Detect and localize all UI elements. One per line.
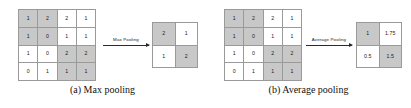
matrix-cell: 2 bbox=[58, 46, 76, 63]
matrix-cell: 0 bbox=[38, 28, 56, 45]
matrix-cell: 2 bbox=[264, 10, 282, 27]
arrow-head-icon bbox=[146, 43, 150, 47]
matrix-cell: 1.75 bbox=[380, 23, 402, 45]
matrix-cell: 1 bbox=[357, 23, 379, 45]
matrix-cell: 0 bbox=[244, 46, 262, 63]
matrix-cell: 1 bbox=[225, 28, 243, 45]
matrix-cell: 1 bbox=[244, 63, 262, 80]
matrix-cell: 1 bbox=[283, 10, 301, 27]
matrix-cell: 1 bbox=[58, 63, 76, 80]
matrix-cell: 1 bbox=[153, 46, 175, 68]
arrow-label: Max Pooling bbox=[113, 37, 139, 42]
input-feature-map-a: 1 2 2 1 1 0 1 1 1 0 2 2 0 1 1 1 bbox=[18, 9, 96, 81]
matrix-cell: 0 bbox=[244, 28, 262, 45]
matrix-cell: 2 bbox=[244, 10, 262, 27]
max-pooling-diagram: 1 2 2 1 1 0 1 1 1 0 2 2 0 1 1 1 Max Pool… bbox=[0, 4, 205, 82]
matrix-cell: 0 bbox=[19, 63, 37, 80]
pooling-figure: 1 2 2 1 1 0 1 1 1 0 2 2 0 1 1 1 Max Pool… bbox=[0, 0, 411, 108]
matrix-cell: 1.5 bbox=[380, 46, 402, 68]
matrix-cell: 1 bbox=[176, 23, 198, 45]
matrix-cell: 1 bbox=[19, 46, 37, 63]
panel-caption: (b) Average pooling bbox=[206, 84, 411, 95]
matrix-cell: 1 bbox=[77, 63, 95, 80]
output-feature-map-b: 1 1.75 0.5 1.5 bbox=[356, 22, 402, 68]
matrix-cell: 2 bbox=[58, 10, 76, 27]
matrix-cell: 1 bbox=[264, 28, 282, 45]
matrix-cell: 2 bbox=[38, 10, 56, 27]
average-pooling-arrow: Average Pooling bbox=[306, 45, 352, 46]
average-pooling-diagram: 1 2 2 1 1 0 1 1 1 0 2 2 0 1 1 1 Average … bbox=[206, 4, 411, 82]
matrix-cell: 0.5 bbox=[357, 46, 379, 68]
matrix-cell: 0 bbox=[225, 63, 243, 80]
arrow-head-icon bbox=[349, 43, 353, 47]
input-feature-map-b: 1 2 2 1 1 0 1 1 1 0 2 2 0 1 1 1 bbox=[224, 9, 302, 81]
output-feature-map-a: 2 1 1 2 bbox=[152, 22, 198, 68]
matrix-cell: 1 bbox=[225, 10, 243, 27]
matrix-cell: 1 bbox=[283, 63, 301, 80]
arrow-label: Average Pooling bbox=[312, 37, 346, 42]
matrix-cell: 1 bbox=[19, 28, 37, 45]
panel-average-pooling: 1 2 2 1 1 0 1 1 1 0 2 2 0 1 1 1 Average … bbox=[206, 0, 411, 108]
matrix-cell: 2 bbox=[153, 23, 175, 45]
matrix-cell: 1 bbox=[77, 10, 95, 27]
arrow-line bbox=[306, 45, 352, 46]
arrow-line bbox=[103, 45, 149, 46]
matrix-cell: 1 bbox=[77, 28, 95, 45]
matrix-cell: 2 bbox=[283, 46, 301, 63]
max-pooling-arrow: Max Pooling bbox=[103, 45, 149, 46]
panel-max-pooling: 1 2 2 1 1 0 1 1 1 0 2 2 0 1 1 1 Max Pool… bbox=[0, 0, 205, 108]
matrix-cell: 2 bbox=[264, 46, 282, 63]
matrix-cell: 1 bbox=[38, 63, 56, 80]
matrix-cell: 1 bbox=[19, 10, 37, 27]
matrix-cell: 1 bbox=[264, 63, 282, 80]
matrix-cell: 2 bbox=[176, 46, 198, 68]
matrix-cell: 2 bbox=[77, 46, 95, 63]
matrix-cell: 1 bbox=[225, 46, 243, 63]
matrix-cell: 1 bbox=[58, 28, 76, 45]
matrix-cell: 1 bbox=[283, 28, 301, 45]
matrix-cell: 0 bbox=[38, 46, 56, 63]
panel-caption: (a) Max pooling bbox=[0, 84, 205, 95]
